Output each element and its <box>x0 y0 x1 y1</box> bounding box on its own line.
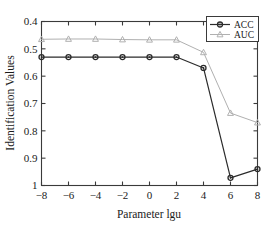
series-acc-marker-dot <box>149 56 151 58</box>
line-chart: −8−6−4−202468 10.90.80.70.60.50.4 Parame… <box>0 0 272 227</box>
chart-legend: ACCAUC <box>207 17 259 42</box>
x-axis-tick-labels: −8−6−4−202468 <box>36 189 261 201</box>
x-tick-label: −6 <box>63 189 75 201</box>
series-acc-marker-dot <box>203 67 205 69</box>
legend-label-acc: ACC <box>234 20 254 30</box>
x-tick-label: 4 <box>201 189 207 201</box>
y-tick-label: 0.6 <box>24 70 38 82</box>
series-acc-marker-dot <box>68 56 70 58</box>
series-line-acc <box>42 57 258 178</box>
x-axis-ticks <box>42 22 258 186</box>
legend-acc-marker-dot <box>219 24 221 26</box>
x-axis-title: Parameter lgu <box>117 208 181 221</box>
x-tick-label: −2 <box>117 189 129 201</box>
y-axis-tick-labels: 10.90.80.70.60.50.4 <box>24 15 38 191</box>
y-tick-label: 0.9 <box>24 152 38 164</box>
series-auc <box>39 36 261 125</box>
x-tick-label: 0 <box>147 189 153 201</box>
y-tick-label: 0.7 <box>24 97 38 109</box>
y-tick-label: 0.4 <box>24 15 38 27</box>
x-tick-label: 2 <box>174 189 180 201</box>
y-tick-label: 0.5 <box>24 43 38 55</box>
series-line-auc <box>42 39 258 123</box>
x-tick-label: −4 <box>90 189 102 201</box>
series-acc-marker-dot <box>122 56 124 58</box>
data-series-layer <box>39 36 261 180</box>
y-tick-label: 1 <box>32 179 38 191</box>
y-axis-ticks <box>42 22 258 186</box>
series-acc <box>39 55 260 181</box>
series-acc-marker-dot <box>230 177 232 179</box>
chart-figure: −8−6−4−202468 10.90.80.70.60.50.4 Parame… <box>0 0 272 227</box>
plot-frame <box>42 22 258 186</box>
series-acc-marker-dot <box>176 56 178 58</box>
series-acc-marker-dot <box>257 168 259 170</box>
series-acc-marker-dot <box>41 56 43 58</box>
y-tick-label: 0.8 <box>24 125 38 137</box>
y-axis-title: Identification Values <box>4 55 16 151</box>
x-tick-label: 8 <box>255 189 261 201</box>
series-acc-marker-dot <box>95 56 97 58</box>
x-tick-label: 6 <box>228 189 234 201</box>
legend-label-auc: AUC <box>234 30 254 40</box>
